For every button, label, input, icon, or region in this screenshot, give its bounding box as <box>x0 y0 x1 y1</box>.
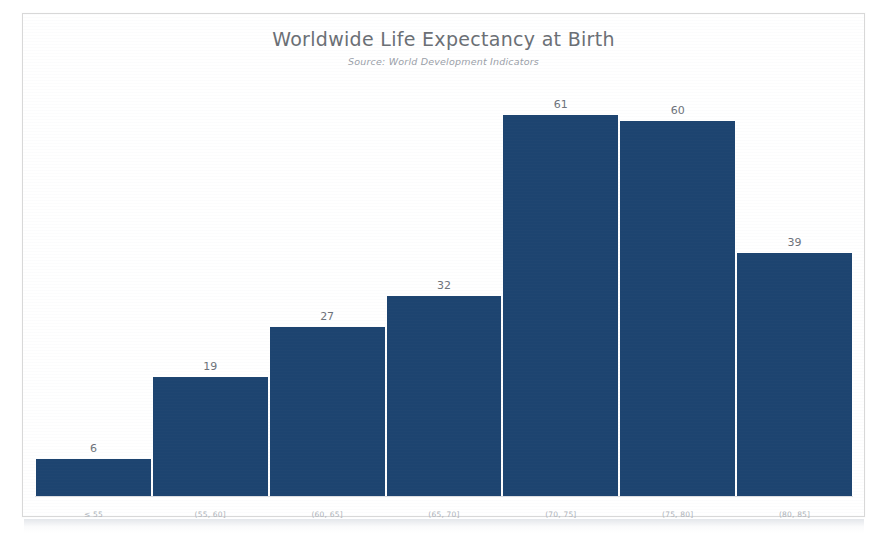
bar-value-label: 60 <box>619 104 736 118</box>
bar[interactable] <box>269 327 386 496</box>
bar-column: 19 <box>152 84 269 496</box>
chart-title: Worldwide Life Expectancy at Birth <box>23 28 864 50</box>
bar-value-label: 39 <box>736 236 853 250</box>
x-tick-label: (75, 80] <box>619 510 736 519</box>
bar-value-label: 61 <box>502 98 619 112</box>
x-tick-label: (80, 85] <box>736 510 853 519</box>
bar-value-label: 32 <box>386 279 503 293</box>
x-axis-tick-labels: ≤ 55(55, 60](60, 65](65, 70](70, 75](75,… <box>35 500 853 520</box>
x-axis-baseline <box>35 496 853 497</box>
plot-area: 6192732616039 <box>35 84 853 496</box>
bar[interactable] <box>736 253 853 496</box>
x-tick-label: ≤ 55 <box>35 510 152 519</box>
bar[interactable] <box>386 296 503 496</box>
chart-subtitle: Source: World Development Indicators <box>23 56 864 67</box>
bar[interactable] <box>152 377 269 496</box>
bar-column: 60 <box>619 84 736 496</box>
bar[interactable] <box>619 121 736 496</box>
bar-column: 27 <box>269 84 386 496</box>
bar-column: 6 <box>35 84 152 496</box>
x-tick-label: (60, 65] <box>269 510 386 519</box>
bar-value-label: 6 <box>35 442 152 456</box>
bar-value-label: 27 <box>269 310 386 324</box>
bar-column: 32 <box>386 84 503 496</box>
bar-column: 61 <box>502 84 619 496</box>
bar[interactable] <box>35 459 152 496</box>
chart-page-frame: Worldwide Life Expectancy at Birth Sourc… <box>22 13 865 517</box>
x-tick-label: (70, 75] <box>502 510 619 519</box>
scan-edge-shadow <box>24 519 864 533</box>
chart-figure: Worldwide Life Expectancy at Birth Sourc… <box>23 14 864 516</box>
bar-value-label: 19 <box>152 360 269 374</box>
bar-column: 39 <box>736 84 853 496</box>
x-tick-label: (55, 60] <box>152 510 269 519</box>
x-tick-label: (65, 70] <box>386 510 503 519</box>
bar[interactable] <box>502 115 619 496</box>
